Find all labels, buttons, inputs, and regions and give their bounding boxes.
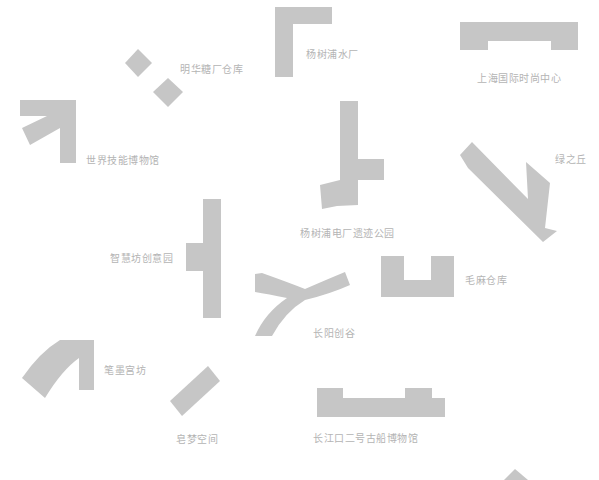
label-zhihui-fang[interactable]: 智慧坊创意园 [110,250,173,265]
map-canvas: 明华糖厂仓库 杨树浦水厂 上海国际时尚中心 世界技能博物馆 杨树浦电厂遗迹公园 … [0,0,599,480]
label-yangshupu-water[interactable]: 杨树浦水厂 [306,46,359,61]
minghua-shape-2[interactable] [153,78,183,107]
lv-zhi-qiu-shape[interactable] [460,142,557,242]
label-changyang[interactable]: 长阳创谷 [313,325,355,340]
label-lv-zhi-qiu[interactable]: 绿之丘 [555,151,587,166]
label-fashion-center[interactable]: 上海国际时尚中心 [477,70,561,85]
partial-shape[interactable] [504,469,528,480]
bixin-shape[interactable] [22,340,94,398]
ancient-ship-museum-shape[interactable] [317,388,445,417]
power-plant-park-shape[interactable] [320,101,384,209]
label-minghua[interactable]: 明华糖厂仓库 [180,61,243,76]
fashion-center-shape[interactable] [460,22,578,50]
maoma-shape[interactable] [381,256,454,297]
skills-museum-shape[interactable] [20,100,76,163]
minghua-shape[interactable] [125,49,152,77]
label-skills-museum[interactable]: 世界技能博物馆 [86,152,160,167]
huanmeng-shape[interactable] [170,366,220,416]
label-ancient-ship-museum[interactable]: 长江口二号古船博物馆 [313,430,418,445]
yangshupu-water-shape[interactable] [275,7,332,77]
label-huanmeng[interactable]: 皂梦空间 [176,431,218,446]
label-bixin[interactable]: 笔墨宫坊 [104,362,146,377]
label-power-plant-park[interactable]: 杨树浦电厂遗迹公园 [300,225,395,240]
label-maoma[interactable]: 毛麻仓库 [465,272,507,287]
zhihui-fang-shape[interactable] [186,199,221,318]
